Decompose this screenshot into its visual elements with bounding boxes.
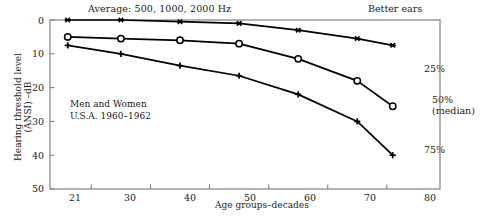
plot-area bbox=[0, 0, 490, 220]
axis-ticks bbox=[50, 20, 387, 189]
series-lines bbox=[68, 20, 393, 155]
hearing-threshold-chart: Average: 500, 1000, 2000 Hz Better ears … bbox=[0, 0, 490, 220]
